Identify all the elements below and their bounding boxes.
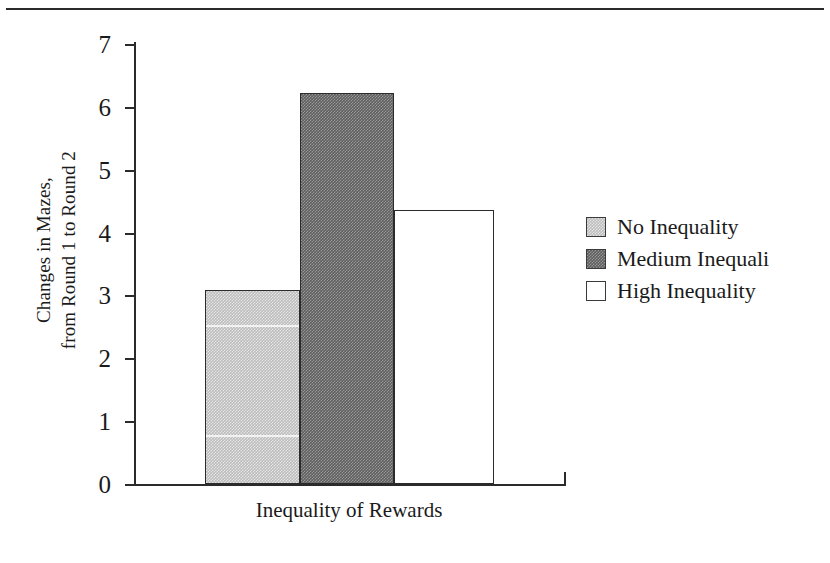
chart-legend: No Inequality Medium Inequali High Inequ… — [586, 211, 830, 307]
y-tick-label-0: 0 — [99, 472, 112, 497]
legend-swatch-light-gray-icon — [586, 217, 606, 237]
y-tick-label-4: 4 — [99, 220, 112, 245]
y-tick-label-3: 3 — [99, 283, 112, 308]
y-tick-1: 1 — [125, 421, 134, 423]
y-tick-label-7: 7 — [99, 32, 112, 57]
bar-chart-figure: Changes in Mazes, from Round 1 to Round … — [0, 0, 830, 563]
y-tick-7: 7 — [125, 44, 134, 46]
legend-item-medium-inequality[interactable]: Medium Inequali — [586, 243, 830, 275]
legend-swatch-dark-gray-icon — [586, 249, 606, 269]
y-tick-label-5: 5 — [99, 157, 112, 182]
legend-item-high-inequality[interactable]: High Inequality — [586, 275, 830, 307]
y-tick-label-6: 6 — [99, 94, 112, 119]
bar-high-inequality — [394, 210, 494, 484]
y-tick-0: 0 — [125, 484, 134, 486]
y-axis-line — [134, 42, 136, 486]
y-tick-6: 6 — [125, 107, 134, 109]
y-tick-5: 5 — [125, 170, 134, 172]
y-tick-2: 2 — [125, 358, 134, 360]
x-axis-title: Inequality of Rewards — [134, 498, 564, 523]
legend-item-no-inequality[interactable]: No Inequality — [586, 211, 830, 243]
legend-swatch-white-icon — [586, 281, 606, 301]
plot-area: 7 6 5 4 3 2 1 0 — [134, 44, 564, 484]
y-tick-label-1: 1 — [99, 409, 112, 434]
y-tick-4: 4 — [125, 233, 134, 235]
x-axis-end-cap — [564, 472, 566, 486]
legend-label-high-inequality: High Inequality — [617, 280, 756, 302]
y-tick-3: 3 — [125, 295, 134, 297]
y-tick-label-2: 2 — [99, 346, 112, 371]
y-axis-title-line2: from Round 1 to Round 2 — [56, 151, 81, 349]
y-axis-title: Changes in Mazes, from Round 1 to Round … — [8, 0, 104, 500]
x-axis-line — [134, 484, 566, 486]
bar-no-inequality — [205, 290, 300, 484]
bar-medium-inequality — [300, 93, 394, 484]
legend-label-medium-inequality: Medium Inequali — [617, 248, 769, 270]
top-divider-rule — [6, 8, 824, 10]
legend-label-no-inequality: No Inequality — [617, 216, 739, 238]
y-axis-title-line1: Changes in Mazes, — [33, 177, 54, 323]
